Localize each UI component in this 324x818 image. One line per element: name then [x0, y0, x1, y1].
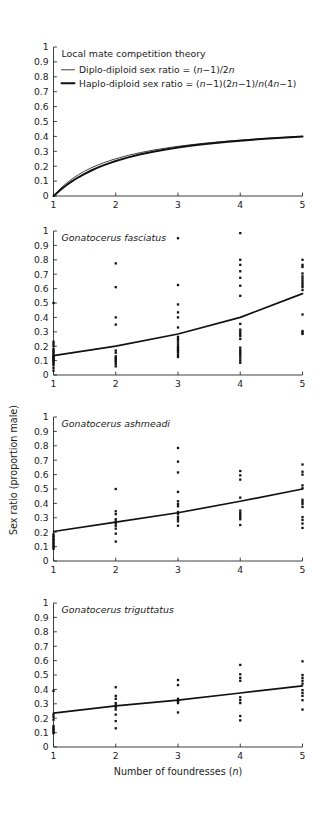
- data-point: [239, 514, 241, 516]
- data-point: [301, 286, 303, 288]
- data-point: [115, 363, 117, 365]
- data-point: [239, 673, 241, 675]
- y-tick-label: 0.6: [34, 101, 49, 112]
- data-point: [52, 533, 54, 535]
- y-tick-label: 0.1: [34, 727, 49, 738]
- data-point: [301, 264, 303, 266]
- data-point: [52, 690, 54, 692]
- y-tick-label: 0.3: [34, 146, 49, 157]
- y-tick-label: 0.5: [34, 669, 49, 680]
- data-point: [301, 499, 303, 501]
- data-point: [177, 341, 179, 343]
- data-point: [239, 518, 241, 520]
- data-point: [177, 491, 179, 493]
- data-point: [52, 302, 54, 304]
- x-tick-label: 1: [51, 564, 57, 575]
- data-point: [239, 232, 241, 234]
- x-tick-label: 4: [237, 564, 243, 575]
- data-point: [115, 513, 117, 515]
- data-point: [177, 336, 179, 338]
- data-point: [115, 695, 117, 697]
- data-point: [177, 303, 179, 305]
- y-tick-label: 1: [43, 41, 49, 52]
- panel-title: Gonatocerus fasciatus: [62, 232, 167, 243]
- data-point: [301, 284, 303, 286]
- y-tick-label: 0.3: [34, 698, 49, 709]
- y-tick-label: 0.8: [34, 440, 49, 451]
- data-point: [301, 695, 303, 697]
- data-point: [239, 338, 241, 340]
- y-tick-label: 0.7: [34, 86, 49, 97]
- panel-1: 00.10.20.30.40.50.60.70.80.9112345Local …: [34, 41, 306, 209]
- x-tick-label: 2: [113, 199, 119, 210]
- data-point: [177, 711, 179, 713]
- data-point: [239, 474, 241, 476]
- data-point: [301, 275, 303, 277]
- scatter-points: [52, 660, 303, 734]
- y-tick-label: 0.4: [34, 131, 49, 142]
- x-tick-label: 1: [51, 378, 57, 389]
- legend-label: Diplo-diploid sex ratio = (n−1)/2n: [79, 64, 235, 75]
- data-point: [301, 527, 303, 529]
- series-haplo-diploid: [54, 137, 303, 196]
- data-point: [177, 518, 179, 520]
- y-tick-label: 0.2: [34, 161, 49, 172]
- y-tick-label: 1: [43, 225, 49, 236]
- panel-title: Gonatocerus ashmeadi: [62, 418, 171, 429]
- data-point: [301, 503, 303, 505]
- data-point: [115, 540, 117, 542]
- data-point: [177, 284, 179, 286]
- data-point: [115, 727, 117, 729]
- x-tick-label: 3: [175, 564, 181, 575]
- data-point: [239, 346, 241, 348]
- panel-4: 00.10.20.30.40.50.60.70.80.9112345Gonato…: [34, 597, 306, 760]
- y-tick-label: 0.4: [34, 498, 49, 509]
- data-point: [239, 715, 241, 717]
- x-tick-label: 4: [237, 750, 243, 761]
- data-point: [177, 326, 179, 328]
- data-point: [239, 351, 241, 353]
- legend-label: Haplo-diploid sex ratio = (n−1)(2n−1)/n(…: [79, 78, 296, 89]
- data-point: [177, 471, 179, 473]
- panel-3: 00.10.20.30.40.50.60.70.80.9112345Gonato…: [34, 411, 306, 574]
- y-tick-label: 0: [43, 190, 49, 201]
- data-point: [301, 473, 303, 475]
- data-point: [52, 345, 54, 347]
- y-tick-label: 0.8: [34, 626, 49, 637]
- x-tick-label: 1: [51, 750, 57, 761]
- x-tick-label: 4: [237, 378, 243, 389]
- y-tick-label: 0.1: [34, 175, 49, 186]
- data-point: [115, 286, 117, 288]
- data-point: [239, 362, 241, 364]
- data-point: [177, 525, 179, 527]
- data-point: [115, 316, 117, 318]
- y-tick-label: 0.1: [34, 541, 49, 552]
- data-point: [115, 720, 117, 722]
- panel-2: 00.10.20.30.40.50.60.70.80.9112345Gonato…: [34, 225, 306, 388]
- data-point: [239, 516, 241, 518]
- data-point: [239, 677, 241, 679]
- data-point: [177, 684, 179, 686]
- data-point: [177, 520, 179, 522]
- panel-title: Local mate competition theory: [62, 48, 207, 59]
- x-axis-title: Number of foundresses (n): [114, 766, 243, 777]
- y-tick-label: 0: [43, 555, 49, 566]
- data-point: [52, 370, 54, 372]
- data-point: [239, 496, 241, 498]
- data-point: [301, 519, 303, 521]
- data-point: [239, 357, 241, 359]
- data-point: [177, 237, 179, 239]
- data-point: [301, 330, 303, 332]
- y-tick-label: 0.5: [34, 297, 49, 308]
- data-point: [239, 509, 241, 511]
- data-point: [115, 352, 117, 354]
- data-point: [177, 505, 179, 507]
- data-point: [115, 686, 117, 688]
- data-point: [115, 702, 117, 704]
- data-point: [177, 346, 179, 348]
- y-tick-label: 0.2: [34, 527, 49, 538]
- data-point: [177, 316, 179, 318]
- y-tick-label: 0.9: [34, 56, 49, 67]
- data-point: [239, 702, 241, 704]
- scatter-points: [52, 447, 303, 550]
